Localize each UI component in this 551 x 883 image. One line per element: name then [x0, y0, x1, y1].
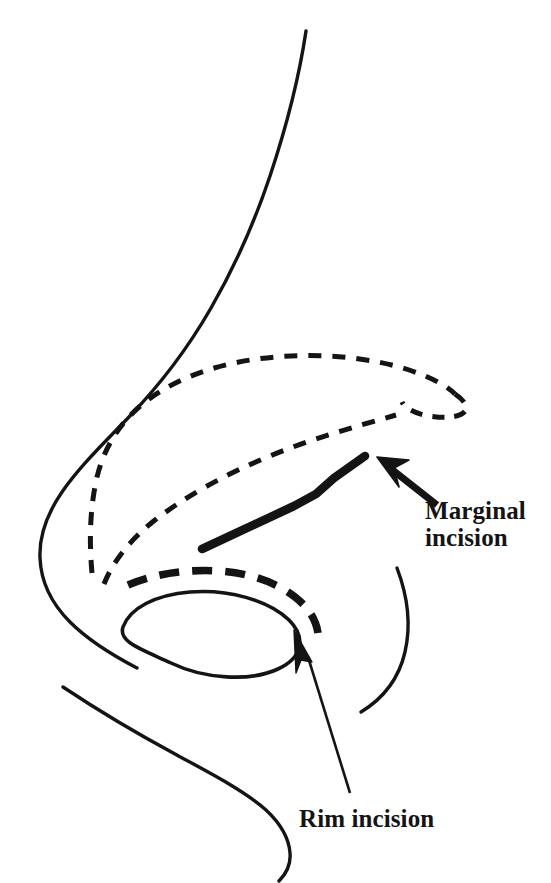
marginal-incision-label-line2: incision	[425, 524, 526, 551]
nasal-anatomy-illustration	[0, 0, 551, 883]
marginal-incision-label: Marginal incision	[425, 497, 526, 551]
rim-incision-line	[128, 571, 318, 633]
rim-incision-label-line1: Rim incision	[299, 805, 434, 832]
cartilage-tip-closure-dashed	[402, 394, 466, 417]
nasal-incision-figure: Marginal incision Rim incision	[0, 0, 551, 883]
alar-crease-arc	[361, 568, 408, 712]
lower-lateral-cartilage-dashed	[104, 415, 396, 584]
rim-incision-label: Rim incision	[299, 805, 434, 832]
rim-incision-arrow	[294, 630, 350, 793]
rim-arrow-head	[294, 630, 312, 673]
marginal-incision-line	[202, 456, 365, 549]
columella-upper-lip-line	[63, 687, 290, 881]
rim-arrow-shaft	[308, 657, 350, 793]
nostril-ellipse	[122, 592, 300, 678]
marginal-incision-label-line1: Marginal	[425, 497, 526, 524]
